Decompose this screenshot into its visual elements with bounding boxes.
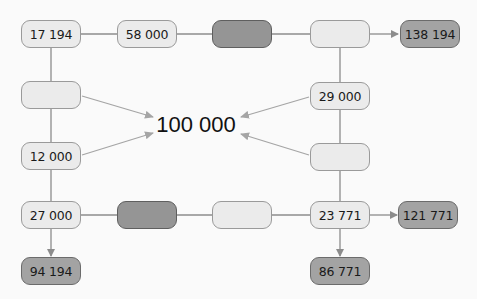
center-total: 100 000 — [150, 112, 242, 138]
node-bottom-result-right: 121 771 — [398, 201, 458, 229]
node-right-3-blank — [310, 143, 370, 171]
node-bottom-2-blank-dark — [117, 201, 177, 229]
node-bottom-left: 27 000 — [21, 201, 81, 229]
node-top-result: 138 194 — [400, 20, 460, 48]
node-result-bottom: 86 771 — [310, 257, 370, 285]
node-top-3-blank-dark — [212, 20, 272, 48]
node-left-3: 12 000 — [21, 142, 81, 170]
node-result-left: 94 194 — [21, 257, 81, 285]
node-top-right-blank — [310, 20, 370, 48]
node-left-2-blank — [21, 81, 81, 109]
node-top-left: 17 194 — [21, 20, 81, 48]
node-bottom-3-blank — [212, 201, 272, 229]
node-top-2: 58 000 — [117, 20, 177, 48]
node-right-2: 29 000 — [310, 82, 370, 110]
node-bottom-right: 23 771 — [310, 201, 370, 229]
